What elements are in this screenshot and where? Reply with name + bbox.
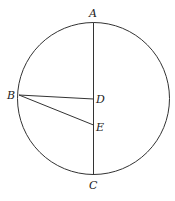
segment-b-d [19,95,94,99]
label-d: D [95,93,105,106]
label-c: C [89,179,98,192]
label-b: B [6,89,15,102]
label-a: A [88,7,97,20]
geometry-diagram: A B D E C [0,0,175,201]
label-e: E [95,121,104,134]
segment-b-e [19,95,94,125]
